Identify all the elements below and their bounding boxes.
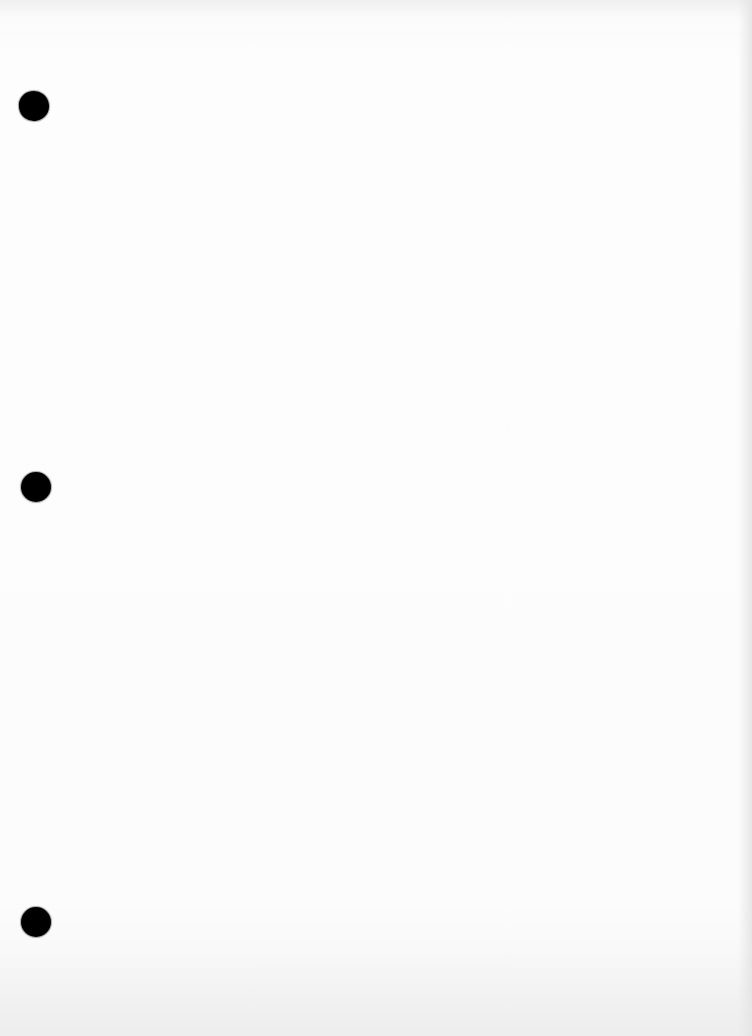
punch-hole-middle bbox=[21, 472, 51, 502]
punch-hole-top bbox=[17, 89, 51, 123]
blank-document-page bbox=[0, 0, 752, 1036]
punch-hole-bottom bbox=[21, 907, 51, 937]
